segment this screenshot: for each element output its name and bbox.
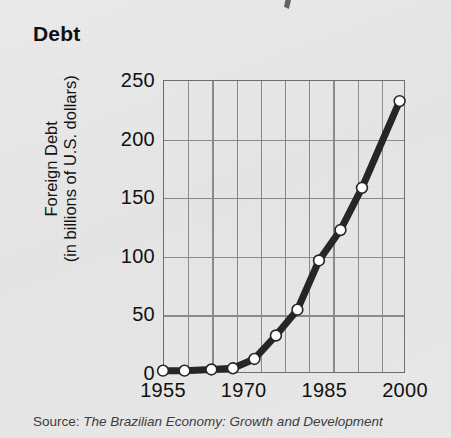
data-point-marker bbox=[292, 304, 303, 315]
data-point-marker bbox=[206, 364, 217, 375]
x-axis-tick-label: 1955 bbox=[140, 379, 186, 402]
data-point-marker bbox=[179, 365, 190, 376]
y-axis-tick-label: 200 bbox=[121, 127, 155, 150]
y-axis-title: Foreign Debt (in billions of U.S. dollar… bbox=[42, 31, 80, 306]
data-point-marker bbox=[228, 363, 239, 374]
data-point-marker bbox=[271, 330, 282, 341]
data-point-marker bbox=[394, 96, 405, 107]
y-axis-title-line2: (in billions of U.S. dollars) bbox=[61, 31, 80, 306]
y-axis-tick-labels: 050100150200250 bbox=[93, 80, 155, 373]
x-axis-tick-label: 2000 bbox=[382, 379, 428, 402]
y-axis-tick-label: 50 bbox=[132, 303, 155, 326]
data-point-marker bbox=[158, 365, 169, 376]
source-citation: Source: The Brazilian Economy: Growth an… bbox=[33, 414, 383, 429]
data-point-marker bbox=[314, 255, 325, 266]
y-axis-tick-label: 150 bbox=[121, 186, 155, 209]
crop-mark-icon bbox=[284, 0, 291, 9]
source-work-title: The Brazilian Economy: Growth and Develo… bbox=[83, 414, 382, 429]
x-axis-tick-labels: 1955197019852000 bbox=[163, 379, 405, 405]
source-prefix: Source: bbox=[33, 414, 80, 429]
x-axis-tick-label: 1985 bbox=[301, 379, 347, 402]
data-point-marker bbox=[357, 182, 368, 193]
data-line-layer bbox=[163, 80, 405, 373]
data-point-marker bbox=[249, 354, 260, 365]
y-axis-title-line1: Foreign Debt bbox=[42, 31, 61, 306]
y-axis-tick-label: 250 bbox=[121, 69, 155, 92]
x-axis-tick-label: 1970 bbox=[221, 379, 267, 402]
data-point-marker bbox=[335, 225, 346, 236]
data-line bbox=[163, 101, 400, 371]
y-axis-tick-label: 100 bbox=[121, 244, 155, 267]
